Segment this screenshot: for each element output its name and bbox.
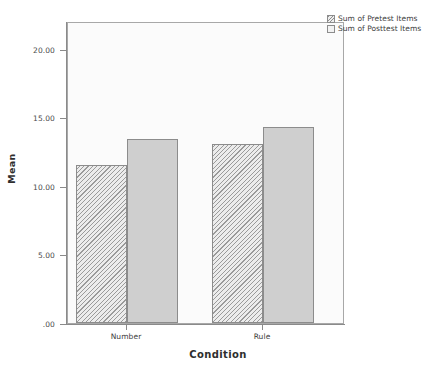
bar-number-pretest [76, 165, 127, 323]
bar-number-posttest [127, 139, 178, 323]
legend-label-posttest: Sum of Posttest Items [338, 24, 421, 33]
y-tick-label-15: 15.00 [33, 114, 55, 123]
x-tick-label-rule: Rule [254, 332, 271, 341]
y-tick-label-20: 20.00 [33, 46, 55, 55]
y-axis-title: Mean [6, 153, 17, 183]
legend-swatch-posttest-icon [327, 25, 335, 33]
legend-item-pretest: Sum of Pretest Items [327, 14, 421, 23]
y-tick-20 [60, 50, 67, 51]
y-axis-line [66, 22, 67, 325]
y-tick-0 [60, 324, 67, 325]
legend-item-posttest: Sum of Posttest Items [327, 24, 421, 33]
legend-label-pretest: Sum of Pretest Items [338, 14, 418, 23]
x-tick-label-number: Number [111, 332, 142, 341]
y-tick-label-0: .00 [43, 320, 55, 329]
chart-legend: Sum of Pretest Items Sum of Posttest Ite… [327, 14, 421, 33]
y-tick-label-5: 5.00 [38, 251, 55, 260]
x-axis-line [67, 324, 345, 325]
plot-area [67, 22, 344, 324]
x-axis-title: Condition [0, 349, 436, 360]
y-tick-10 [60, 187, 67, 188]
y-tick-label-10: 10.00 [33, 183, 55, 192]
bar-rule-pretest [212, 144, 263, 323]
y-tick-15 [60, 118, 67, 119]
bar-rule-posttest [263, 127, 314, 323]
bar-chart: .00 5.00 10.00 15.00 20.00 Mean Number R… [0, 0, 436, 370]
x-tick-rule [262, 325, 263, 330]
legend-swatch-pretest-icon [327, 15, 335, 23]
y-tick-5 [60, 255, 67, 256]
x-tick-number [126, 325, 127, 330]
